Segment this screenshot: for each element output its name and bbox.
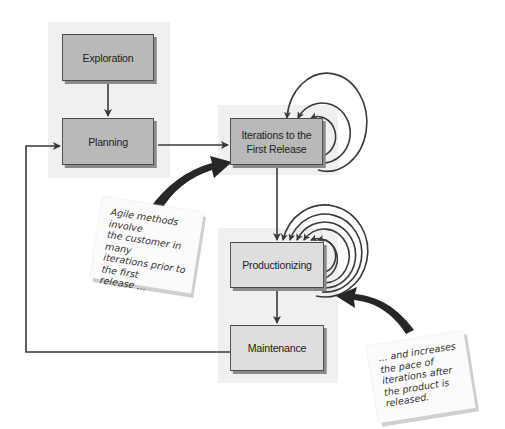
node-iterations-label: Iterations to the First Release bbox=[242, 128, 312, 156]
node-exploration-label: Exploration bbox=[83, 51, 134, 65]
node-maintenance-label: Maintenance bbox=[248, 341, 307, 355]
callout-arrow-2 bbox=[336, 287, 414, 334]
node-iterations: Iterations to the First Release bbox=[230, 118, 323, 165]
note-before-release: Agile methods involve the customer in ma… bbox=[90, 197, 204, 294]
callout-arrow-1 bbox=[150, 156, 232, 212]
node-planning: Planning bbox=[62, 118, 154, 165]
note-after-release: ... and increases the pace of iterations… bbox=[367, 331, 476, 423]
node-maintenance: Maintenance bbox=[230, 325, 324, 371]
node-planning-label: Planning bbox=[88, 135, 128, 149]
node-productionizing-label: Productionizing bbox=[242, 258, 312, 272]
node-productionizing: Productionizing bbox=[230, 242, 324, 288]
node-exploration: Exploration bbox=[62, 34, 154, 81]
